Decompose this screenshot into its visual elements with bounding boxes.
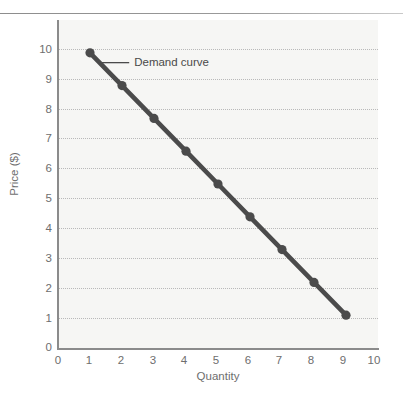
gridline-y-7 — [58, 138, 378, 139]
gridline-y-8 — [58, 109, 378, 110]
y-tick-label: 9 — [26, 73, 52, 85]
y-tick-4: 4 — [18, 222, 52, 234]
x-tick-label: 9 — [331, 353, 355, 367]
y-tick-6: 6 — [18, 162, 52, 174]
x-tick-label: 0 — [46, 353, 70, 367]
x-tick-4: 4 — [172, 353, 196, 367]
y-tick-10: 10 — [18, 43, 52, 55]
x-tick-1: 1 — [77, 353, 101, 367]
x-tick-label: 8 — [299, 353, 323, 367]
x-tick-label: 7 — [267, 353, 291, 367]
plot-area — [58, 20, 378, 348]
y-axis-title: Price ($) — [8, 144, 20, 204]
y-tick-label: 8 — [26, 103, 52, 115]
x-axis-line — [57, 348, 379, 350]
y-tick-2: 2 — [18, 282, 52, 294]
y-tick-0: 0 — [18, 341, 52, 353]
y-tick-label: 1 — [26, 312, 52, 324]
gridline-y-3 — [58, 258, 378, 259]
y-tick-5: 5 — [18, 192, 52, 204]
x-tick-label: 1 — [77, 353, 101, 367]
y-tick-3: 3 — [18, 252, 52, 264]
y-tick-label: 2 — [26, 282, 52, 294]
x-tick-10: 10 — [362, 353, 386, 367]
y-tick-label: 4 — [26, 222, 52, 234]
demand-curve-annotation: Demand curve — [134, 56, 209, 68]
x-tick-label: 10 — [362, 353, 386, 367]
x-tick-6: 6 — [236, 353, 260, 367]
x-tick-3: 3 — [141, 353, 165, 367]
x-tick-9: 9 — [331, 353, 355, 367]
gridline-y-6 — [58, 168, 378, 169]
gridline-y-5 — [58, 198, 378, 199]
y-tick-label: 10 — [26, 43, 52, 55]
y-tick-1: 1 — [18, 312, 52, 324]
y-tick-9: 9 — [18, 73, 52, 85]
gridline-y-9 — [58, 79, 378, 80]
y-tick-label: 3 — [26, 252, 52, 264]
y-tick-label: 5 — [26, 192, 52, 204]
y-tick-label: 6 — [26, 162, 52, 174]
x-tick-5: 5 — [204, 353, 228, 367]
x-tick-label: 6 — [236, 353, 260, 367]
y-tick-7: 7 — [18, 132, 52, 144]
header-rule — [0, 13, 403, 14]
y-axis-line — [57, 20, 59, 349]
gridline-y-4 — [58, 228, 378, 229]
x-tick-2: 2 — [109, 353, 133, 367]
x-tick-7: 7 — [267, 353, 291, 367]
x-tick-8: 8 — [299, 353, 323, 367]
gridline-y-10 — [58, 49, 378, 50]
x-tick-label: 2 — [109, 353, 133, 367]
x-tick-0: 0 — [46, 353, 70, 367]
y-tick-8: 8 — [18, 103, 52, 115]
x-axis-title: Quantity — [58, 370, 378, 382]
y-tick-label: 7 — [26, 132, 52, 144]
demand-curve-figure: 10 9 8 7 6 5 4 3 2 1 0 0 1 2 3 4 5 — [0, 0, 403, 401]
x-tick-label: 4 — [172, 353, 196, 367]
x-tick-label: 3 — [141, 353, 165, 367]
y-tick-label: 0 — [26, 341, 52, 353]
gridline-y-2 — [58, 288, 378, 289]
gridline-y-1 — [58, 318, 378, 319]
x-tick-label: 5 — [204, 353, 228, 367]
